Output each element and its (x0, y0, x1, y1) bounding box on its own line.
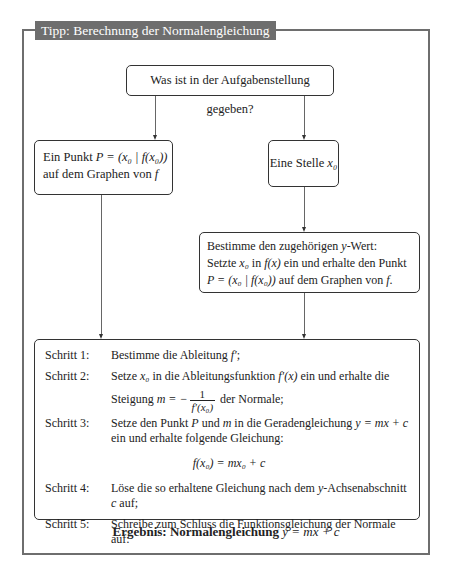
step-label: Schritt 4: (45, 481, 111, 511)
question-box: Was ist in der Aufgabenstellung gegeben? (126, 65, 334, 96)
line-equation-math: y = mx + c (355, 416, 408, 430)
period: . (389, 273, 392, 287)
insert-text-c: ein und erhalte den Punkt (281, 256, 407, 270)
step-text: in die Geradengleichung (231, 416, 355, 430)
slope-fraction: 1f′(x₀) (190, 388, 216, 413)
slope-math: m = − (157, 392, 188, 406)
tip-title: Tipp: Berechnung der Normalengleichung (35, 21, 276, 40)
step-text: Bestimme die Ableitung (111, 348, 231, 362)
P-math: P (191, 416, 198, 430)
step-text: Setze (111, 369, 140, 383)
step-label: Schritt 1: (45, 348, 111, 363)
on-graph-text: auf dem Graphen von (276, 273, 386, 287)
point-text: Ein Punkt (43, 150, 96, 164)
step-label: Schritt 2: (45, 369, 111, 413)
determine-y-value-box: Bestimme den zugehörigen y-Wert: Setzte … (199, 232, 420, 293)
step-text: und (199, 416, 223, 430)
fraction-numerator: 1 (198, 388, 208, 400)
arrow-line-left-long (101, 195, 102, 335)
arrow-line-right (304, 96, 305, 136)
arrow-line-right-3 (304, 293, 305, 335)
determine-text-a: Bestimme den zugehörigen (207, 239, 341, 253)
step-1: Schritt 1: Bestimme die Ableitung f′; (45, 348, 413, 363)
step-2: Schritt 2: Setze x₀ in die Ableitungsfun… (45, 369, 413, 413)
position-text: Eine Stelle (270, 156, 328, 170)
graph-text: auf dem Graphen von (43, 167, 155, 181)
point-math: P = (x₀ | f(x₀)) (96, 150, 168, 164)
arrow-line-left (155, 96, 156, 136)
step-3: Schritt 3: Setze den Punkt P und m in di… (45, 416, 413, 477)
step-text: auf; (116, 496, 138, 510)
insert-math-fx: f(x) (264, 256, 281, 270)
step-text: der Normale; (217, 392, 284, 406)
equation-display: f(x₀) = mx₀ + c (193, 456, 266, 470)
step-text: Steigung (111, 392, 157, 406)
point-given-box: Ein Punkt P = (x₀ | f(x₀)) auf dem Graph… (34, 140, 173, 195)
arrow-line-right-2 (304, 187, 305, 228)
result-label: Ergebnis: Normalengleichung (113, 524, 279, 539)
position-math: x₀ (327, 156, 337, 170)
result-math: y = mx + c (282, 524, 339, 539)
steps-box: Schritt 1: Bestimme die Ableitung f′; Sc… (34, 339, 420, 520)
insert-text-a: Setzte (207, 256, 239, 270)
step-text: -Achsenabschnitt (323, 481, 406, 495)
position-given-box: Eine Stelle x₀ (268, 140, 339, 187)
semicolon: ; (237, 348, 240, 362)
step-text: Setze den Punkt (111, 416, 191, 430)
step-text: Löse die so erhaltene Gleichung nach dem (111, 481, 318, 495)
insert-text-b: in (249, 256, 264, 270)
fraction-denominator: f′(x₀) (190, 400, 216, 413)
step-text: in die Ableitungsfunktion (150, 369, 279, 383)
x0-math: x₀ (140, 369, 150, 383)
derivative-fx-math: f′(x) (278, 369, 297, 383)
step-4: Schritt 4: Löse die so erhaltene Gleichu… (45, 481, 413, 511)
point-P-math: P = (x₀ | f(x₀)) (207, 273, 276, 287)
insert-math-x0: x₀ (239, 256, 249, 270)
step-text: ein und erhalte die (297, 369, 389, 383)
cropped-preceding-text: — — — — — — — — — — — — — — — (20, 0, 260, 3)
determine-text-b: -Wert: (347, 239, 377, 253)
step-text: ein und erhalte folgende Gleichung: (111, 431, 284, 445)
result-line: Ergebnis: Normalengleichung y = mx + c (22, 524, 430, 540)
graph-math: f (155, 167, 158, 181)
